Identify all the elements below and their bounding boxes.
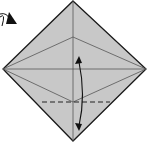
paper-diamond [3,1,146,141]
turn-over-arrow-head-icon [6,12,17,24]
turn-over-arrow [0,16,4,26]
origami-diagram [0,0,148,150]
